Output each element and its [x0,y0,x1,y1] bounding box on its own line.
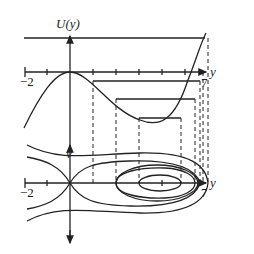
x-max-label-bottom: 7 [201,185,208,200]
phase-plane [25,145,208,243]
phase-portrait-diagram: U(y) y −2 7 v y −2 7 [0,0,254,254]
x-max-label-top: 7 [201,75,208,90]
x-min-label-bottom: −2 [20,185,34,200]
y-axis-label-bottom: y [208,175,216,190]
potential-plot [24,33,208,183]
y-axis-label-top: y [208,64,216,79]
v-axis-label: v [66,146,72,161]
u-axis-label: U(y) [56,16,80,31]
x-min-label-top: −2 [20,74,34,89]
